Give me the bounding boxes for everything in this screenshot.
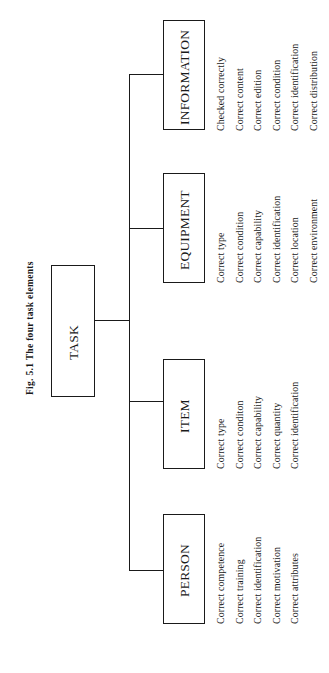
attribute-item: Correct location	[289, 217, 300, 283]
attribute-item: Checked correctly	[215, 57, 226, 131]
equipment-label: EQUIPMENT	[177, 190, 193, 270]
attribute-item: Correct attributes	[289, 553, 300, 624]
attribute-item: Correct identification	[289, 382, 300, 469]
trunk-line	[129, 74, 130, 570]
task-label: TASK	[66, 325, 82, 360]
person-label: PERSON	[177, 544, 193, 597]
attribute-item: Correct motivation	[271, 547, 282, 624]
task-connector	[95, 320, 129, 321]
attribute-item: Correct condition	[234, 212, 245, 283]
attribute-item: Correct identification	[271, 196, 282, 283]
attribute-item: Correct training	[234, 559, 245, 624]
attribute-item: Correct edition	[252, 70, 263, 131]
attribute-item: Correct quantity	[271, 403, 282, 469]
attribute-item: Correct competence	[215, 543, 226, 624]
branch-information	[129, 74, 163, 75]
information-label: INFORMATION	[177, 30, 193, 125]
attribute-item: Correct distribution	[308, 51, 319, 131]
attribute-item: Correct identification	[252, 537, 263, 624]
attribute-item: Correct type	[215, 419, 226, 470]
figure-title: Fig. 5.1 The four task elements	[25, 261, 35, 395]
branch-item	[129, 401, 163, 402]
item-label: ITEM	[177, 399, 193, 433]
branch-person	[129, 570, 163, 571]
attribute-item: Correct environment	[308, 199, 319, 283]
attribute-item: Correct content	[234, 68, 245, 131]
attribute-item: Correct capability	[252, 396, 263, 469]
attribute-item: Correct identification	[289, 44, 300, 131]
branch-equipment	[129, 228, 163, 229]
attribute-item: Correct condition	[271, 60, 282, 131]
attribute-item: Correct conditon	[234, 400, 245, 469]
attribute-item: Correct type	[215, 233, 226, 284]
attribute-item: Correct capability	[252, 210, 263, 283]
